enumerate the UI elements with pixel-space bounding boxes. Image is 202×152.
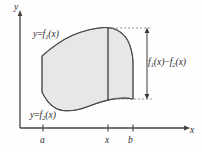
- upper-curve-label: y=f1(x): [33, 30, 59, 40]
- lower-curve-label: y=f2(x): [30, 111, 56, 121]
- x-axis-label: x: [190, 126, 194, 136]
- lower-curve-label-arg: (x): [45, 110, 56, 120]
- y-axis-arrow: [18, 10, 23, 16]
- difference-label-arg2: (x): [175, 57, 186, 67]
- upper-curve-label-arg: (x): [48, 29, 59, 39]
- difference-label: f1(x)−f2(x): [148, 58, 186, 68]
- y-axis-label: y: [14, 3, 18, 13]
- x-tick-label-a: a: [40, 136, 45, 146]
- x-tick-label-x: x: [105, 136, 109, 146]
- x-tick-label-b: b: [128, 136, 133, 146]
- area-between-curves-figure: y=f1(x) y=f2(x) f1(x)−f2(x) y x a x b: [0, 0, 202, 152]
- dimension-arrow-bottom: [145, 94, 150, 100]
- difference-label-arg1: (x): [154, 57, 165, 67]
- diagram-canvas: [0, 0, 202, 152]
